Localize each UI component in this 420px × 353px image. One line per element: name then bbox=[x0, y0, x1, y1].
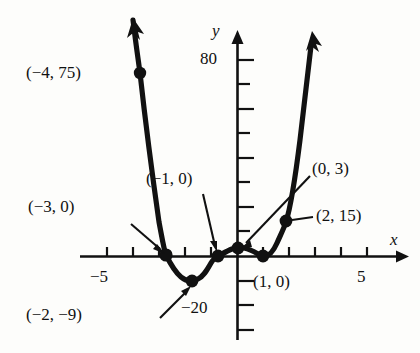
leader-minus1-0 bbox=[203, 194, 217, 252]
point-label-1-0: (1, 0) bbox=[253, 273, 290, 290]
point-label-minus1-0: (−1, 0) bbox=[146, 170, 192, 187]
point-marker-2-15 bbox=[280, 215, 293, 228]
y-axis-ticks bbox=[238, 60, 254, 330]
point-label-2-15: (2, 15) bbox=[316, 207, 361, 224]
curve-path bbox=[133, 20, 311, 281]
point-label-0-3: (0, 3) bbox=[312, 160, 349, 177]
graph-figure: (−4, 75) (−3, 0) (−1, 0) (0, 3) (2, 15) … bbox=[0, 0, 420, 353]
point-label-minus3-0: (−3, 0) bbox=[28, 198, 74, 215]
x-tick-label-5: 5 bbox=[357, 268, 366, 285]
y-axis-arrowhead bbox=[232, 30, 244, 44]
x-axis-arrowhead bbox=[396, 251, 409, 263]
x-tick-label-minus5: −5 bbox=[90, 268, 108, 285]
x-axis-label: x bbox=[390, 231, 398, 248]
point-marker-minus4-75 bbox=[134, 67, 146, 79]
point-label-minus4-75: (−4, 75) bbox=[26, 64, 81, 81]
y-tick-label-80: 80 bbox=[200, 50, 217, 67]
point-label-minus2-minus9: (−2, −9) bbox=[26, 306, 82, 323]
leader-lines bbox=[131, 176, 313, 318]
point-marker-minus1-0 bbox=[212, 250, 225, 263]
leader-2-15 bbox=[292, 217, 313, 220]
y-axis-label: y bbox=[212, 22, 220, 39]
leader-0-3 bbox=[240, 176, 310, 249]
plotted-curve bbox=[127, 18, 322, 281]
y-axis bbox=[232, 30, 255, 340]
point-marker-1-0 bbox=[257, 250, 270, 263]
y-tick-label-minus20: −20 bbox=[181, 299, 208, 316]
point-marker-minus2-minus9 bbox=[186, 275, 199, 288]
